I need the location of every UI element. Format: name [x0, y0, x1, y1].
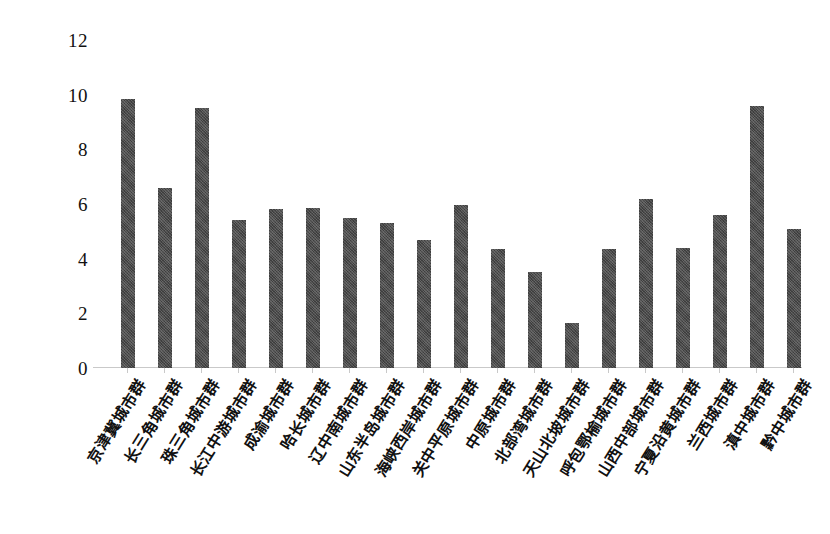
bar-slot — [664, 40, 701, 368]
bar-slot — [405, 40, 442, 368]
bar-slot — [442, 40, 479, 368]
bar[interactable] — [343, 218, 357, 368]
bar[interactable] — [750, 106, 764, 368]
bar-slot — [738, 40, 775, 368]
bar[interactable] — [454, 205, 468, 368]
x-axis-labels: 京津冀城市群长三角城市群珠三角城市群长江中游城市群成渝城市群哈长城市群辽中南城市… — [97, 368, 797, 534]
bar-slot — [701, 40, 738, 368]
bars-layer — [97, 40, 797, 368]
y-tick-label: 0 — [78, 359, 88, 378]
bar-slot — [257, 40, 294, 368]
bar[interactable] — [195, 108, 209, 368]
bar-slot — [590, 40, 627, 368]
bar-slot — [220, 40, 257, 368]
bar-slot — [146, 40, 183, 368]
bar-slot — [775, 40, 812, 368]
y-tick-label: 8 — [78, 140, 88, 159]
bar-slot — [183, 40, 220, 368]
bar[interactable] — [565, 323, 579, 368]
bar-slot — [553, 40, 590, 368]
bar[interactable] — [232, 220, 246, 368]
bar[interactable] — [306, 208, 320, 368]
bar[interactable] — [380, 223, 394, 368]
bar-slot — [516, 40, 553, 368]
bar[interactable] — [491, 249, 505, 368]
bar[interactable] — [269, 209, 283, 368]
bar[interactable] — [676, 248, 690, 368]
y-tick-label: 12 — [68, 31, 88, 50]
y-tick-label: 10 — [68, 86, 88, 105]
bar[interactable] — [713, 215, 727, 368]
y-axis: 024681012 — [40, 28, 88, 378]
bar-slot — [627, 40, 664, 368]
bar[interactable] — [121, 99, 135, 368]
bar-slot — [368, 40, 405, 368]
bar[interactable] — [158, 188, 172, 368]
bar[interactable] — [787, 229, 801, 368]
bar-slot — [109, 40, 146, 368]
y-tick-label: 4 — [78, 250, 88, 269]
bar-slot — [294, 40, 331, 368]
bar-chart: 024681012 京津冀城市群长三角城市群珠三角城市群长江中游城市群成渝城市群… — [0, 0, 830, 534]
plot-area — [97, 40, 797, 368]
bar[interactable] — [639, 199, 653, 368]
bar[interactable] — [602, 249, 616, 368]
y-tick-label: 6 — [78, 195, 88, 214]
y-tick-label: 2 — [78, 304, 88, 323]
bar-slot — [479, 40, 516, 368]
bar[interactable] — [417, 240, 431, 368]
bar-slot — [331, 40, 368, 368]
bar[interactable] — [528, 272, 542, 368]
